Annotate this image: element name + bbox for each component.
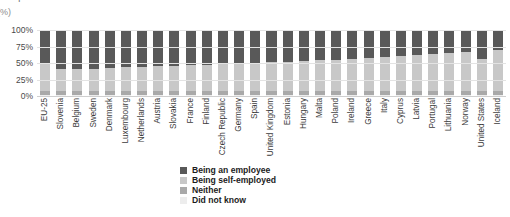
- gridline: [37, 47, 506, 48]
- x-axis-tick-label: Italy: [381, 98, 389, 113]
- bar-segment: [428, 54, 438, 91]
- bar-segment: [105, 30, 115, 68]
- x-axis-tick: Malta: [312, 97, 328, 159]
- bar-segment: [153, 66, 163, 91]
- x-axis-tick: Ireland: [344, 97, 360, 159]
- x-axis-tick-label: Luxembourg: [122, 98, 130, 144]
- bar-segment: [218, 64, 228, 91]
- bar-segment: [315, 60, 325, 90]
- x-axis-tick: Austria: [150, 97, 166, 159]
- x-axis-tick: Hungary: [296, 97, 312, 159]
- x-axis-tick-label: Slovakia: [170, 98, 178, 129]
- chart-figure: I (%) 0%25%50%75%100% EU-25SloveniaBelgi…: [0, 0, 510, 217]
- x-axis-tick: Sweden: [86, 97, 102, 159]
- x-axis-tick: Estonia: [280, 97, 296, 159]
- x-axis-tick-label: Ireland: [348, 98, 356, 123]
- bar-segment: [380, 30, 390, 57]
- gridline: [37, 30, 506, 31]
- bar-segment: [396, 30, 406, 56]
- bar-segment: [493, 50, 503, 92]
- x-axis-tick: Norway: [457, 97, 473, 159]
- bar-segment: [412, 55, 422, 91]
- legend-swatch-icon: [180, 167, 187, 174]
- chart-legend: Being an employeeBeing self-employedNeit…: [0, 166, 510, 205]
- x-axis-tick-label: Estonia: [284, 98, 292, 125]
- x-axis-tick-label: Belgium: [73, 98, 81, 128]
- bar-segment: [153, 30, 163, 66]
- bar-segment: [186, 65, 196, 91]
- bar-segment: [444, 53, 454, 91]
- bar-segment: [477, 30, 487, 59]
- x-axis-tick: Belgium: [69, 97, 85, 159]
- y-axis-unit-label: (%): [0, 7, 11, 17]
- x-axis-tick: France: [183, 97, 199, 159]
- bar-segment: [331, 30, 341, 60]
- bar-segment: [283, 30, 293, 62]
- legend-label: Neither: [192, 186, 222, 195]
- x-axis-tick: EU-25: [37, 97, 53, 159]
- x-axis-tick-label: Norway: [461, 98, 469, 126]
- x-axis-tick-label: United States: [478, 98, 486, 147]
- bar-segment: [396, 56, 406, 90]
- legend-label: Did not know: [192, 196, 246, 205]
- y-axis-tick-label: 25%: [16, 76, 33, 85]
- y-axis-tick-label: 50%: [16, 59, 33, 68]
- x-axis-tick: Greece: [360, 97, 376, 159]
- bar-segment: [364, 30, 374, 58]
- x-axis-tick: Slovakia: [166, 97, 182, 159]
- gridline: [37, 80, 506, 81]
- x-axis-tick: Slovenia: [53, 97, 69, 159]
- x-axis-tick: Luxembourg: [118, 97, 134, 159]
- clipped-title-left: I: [18, 0, 21, 4]
- bar-segment: [461, 52, 471, 91]
- y-axis-tick-label: 100%: [11, 26, 33, 35]
- bar-segment: [412, 30, 422, 55]
- x-axis-tick-label: Hungary: [300, 98, 308, 129]
- x-axis-tick: Czech Republic: [215, 97, 231, 159]
- bar-segment: [121, 30, 131, 67]
- bar-segment: [315, 30, 325, 60]
- x-axis-tick-label: Cyprus: [397, 98, 405, 124]
- x-axis-tick: United States: [474, 97, 490, 159]
- x-axis-tick: United Kingdom: [263, 97, 279, 159]
- x-axis-tick-label: France: [187, 98, 195, 123]
- bar-segment: [202, 65, 212, 91]
- x-axis-tick: Denmark: [102, 97, 118, 159]
- bar-segment: [461, 30, 471, 52]
- x-axis-tick: Iceland: [490, 97, 506, 159]
- y-axis-tick-label: 75%: [16, 43, 33, 52]
- x-axis-tick-label: Finland: [203, 98, 211, 125]
- x-axis-tick-label: Czech Republic: [219, 98, 227, 155]
- x-axis-tick: Lithuania: [441, 97, 457, 159]
- x-axis-tick-label: Germany: [235, 98, 243, 132]
- x-axis-tick-label: Portugal: [429, 98, 437, 129]
- legend-item: Did not know: [180, 196, 330, 205]
- x-axis-tick-label: Austria: [154, 98, 162, 123]
- bar-segment: [331, 60, 341, 91]
- x-axis-tick: Netherlands: [134, 97, 150, 159]
- x-axis-tick-label: Poland: [332, 98, 340, 124]
- x-axis-tick: Portugal: [425, 97, 441, 159]
- legend-swatch-icon: [180, 197, 187, 204]
- legend-label: Being an employee: [192, 166, 270, 175]
- bar-segment: [234, 64, 244, 92]
- bar-segment: [169, 66, 179, 92]
- bar-segment: [428, 30, 438, 54]
- x-axis-category-labels: EU-25SloveniaBelgiumSwedenDenmarkLuxembo…: [37, 97, 506, 159]
- x-axis-tick: Latvia: [409, 97, 425, 159]
- x-axis-tick-label: Netherlands: [138, 98, 146, 142]
- bar-segment: [299, 30, 309, 61]
- x-axis-tick: Finland: [199, 97, 215, 159]
- x-axis-tick-label: Denmark: [106, 98, 114, 131]
- y-axis-tick-label: 0%: [21, 92, 33, 101]
- x-axis-tick-label: Malta: [316, 98, 324, 118]
- x-axis-tick-label: United Kingdom: [267, 98, 275, 156]
- bar-segment: [266, 62, 276, 90]
- x-axis-tick-label: Lithuania: [445, 98, 453, 131]
- bar-segment: [250, 63, 260, 91]
- bar-segment: [137, 30, 147, 67]
- plot-area: 0%25%50%75%100%: [37, 30, 506, 96]
- legend-item: Being an employee: [180, 166, 330, 175]
- legend-item: Being self-employed: [180, 176, 330, 185]
- bar-segment: [444, 30, 454, 53]
